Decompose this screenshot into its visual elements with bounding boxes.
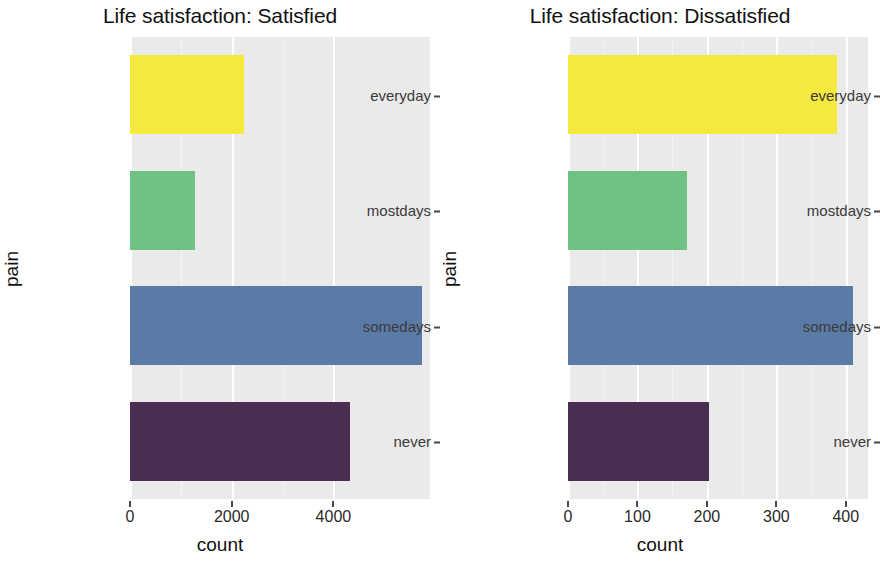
x-tick-label: 0 <box>126 508 135 526</box>
y-tick-label-never: never <box>756 433 880 450</box>
y-tick-label-everyday: everyday <box>756 86 880 103</box>
y-axis-title-left: pain <box>1 239 23 299</box>
y-tick-label-mostdays: mostdays <box>314 202 440 219</box>
plot-area-dissatisfied <box>568 37 868 499</box>
plot-area-satisfied <box>130 37 430 499</box>
bar-never <box>568 402 709 481</box>
x-tick-label: 100 <box>624 508 651 526</box>
y-tick-text: everyday <box>810 86 871 103</box>
y-tick-text: mostdays <box>367 202 431 219</box>
facet-title-dissatisfied: Life satisfaction: Dissatisfied <box>440 4 880 28</box>
y-axis-title-right: pain <box>439 239 461 299</box>
x-tick-mark <box>231 501 233 507</box>
x-tick-label: 400 <box>832 508 859 526</box>
bar-chart-figure: Life satisfaction: Satisfied pain count … <box>0 0 880 565</box>
x-tick-label: 4000 <box>316 508 352 526</box>
bar-everyday <box>130 55 244 134</box>
y-tick-label-never: never <box>314 433 440 450</box>
y-tick-label-mostdays: mostdays <box>756 202 880 219</box>
x-tick-mark <box>332 501 334 507</box>
x-tick-label: 2000 <box>214 508 250 526</box>
x-tick-mark <box>129 501 131 507</box>
y-tick-mark <box>874 95 880 97</box>
y-tick-text: never <box>393 433 431 450</box>
x-tick-mark <box>706 501 708 507</box>
gridline-major <box>846 37 848 499</box>
x-tick-label: 200 <box>694 508 721 526</box>
x-tick-label: 0 <box>564 508 573 526</box>
bar-mostdays <box>130 171 195 250</box>
y-tick-mark <box>874 211 880 213</box>
x-axis-title-right: count <box>440 534 880 556</box>
y-tick-label-somedays: somedays <box>314 317 440 334</box>
y-tick-text: never <box>833 433 871 450</box>
x-tick-mark <box>636 501 638 507</box>
y-tick-label-everyday: everyday <box>314 86 440 103</box>
y-tick-text: mostdays <box>807 202 871 219</box>
x-axis-title-left: count <box>0 534 440 556</box>
y-tick-label-somedays: somedays <box>756 317 880 334</box>
facet-panel-satisfied: Life satisfaction: Satisfied pain count … <box>0 0 440 565</box>
y-tick-mark <box>874 326 880 328</box>
x-tick-mark <box>775 501 777 507</box>
y-tick-text: everyday <box>370 86 431 103</box>
x-tick-mark <box>845 501 847 507</box>
facet-title-satisfied: Life satisfaction: Satisfied <box>0 4 440 28</box>
bar-mostdays <box>568 171 687 250</box>
facet-panel-dissatisfied: Life satisfaction: Dissatisfied pain cou… <box>440 0 880 565</box>
y-tick-mark <box>874 442 880 444</box>
x-tick-label: 300 <box>763 508 790 526</box>
y-tick-text: somedays <box>803 317 871 334</box>
x-tick-mark <box>567 501 569 507</box>
y-tick-text: somedays <box>363 317 431 334</box>
